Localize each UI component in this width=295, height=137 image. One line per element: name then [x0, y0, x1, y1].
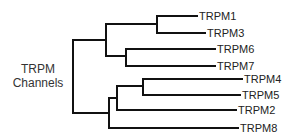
- leaf-label-trpm5: TRPM5: [242, 89, 279, 101]
- leaf-label-trpm2: TRPM2: [238, 104, 275, 116]
- leaf-label-trpm8: TRPM8: [240, 122, 277, 134]
- leaf-label-trpm6: TRPM6: [217, 43, 254, 55]
- root-label: TRPM Channels: [8, 62, 68, 90]
- root-label-line1: TRPM: [8, 62, 68, 76]
- root-label-line2: Channels: [8, 76, 68, 90]
- leaf-label-trpm3: TRPM3: [207, 27, 244, 39]
- leaf-label-trpm1: TRPM1: [199, 10, 236, 22]
- leaf-label-trpm7: TRPM7: [217, 60, 254, 72]
- leaf-label-trpm4: TRPM4: [244, 73, 281, 85]
